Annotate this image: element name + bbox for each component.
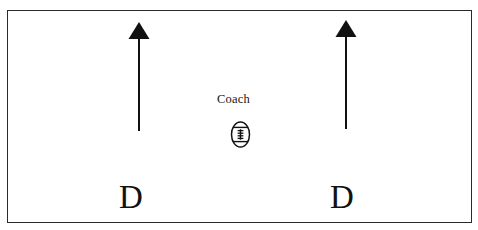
- left-run-arrow: [126, 22, 152, 131]
- player-marker-left: D: [119, 181, 143, 214]
- football-drill-diagram: Coach D D: [0, 0, 478, 230]
- football-icon: [230, 121, 251, 148]
- right-run-arrow: [333, 20, 359, 129]
- coach-label: Coach: [217, 93, 250, 106]
- player-marker-right: D: [330, 181, 354, 214]
- field-boundary: [7, 10, 472, 223]
